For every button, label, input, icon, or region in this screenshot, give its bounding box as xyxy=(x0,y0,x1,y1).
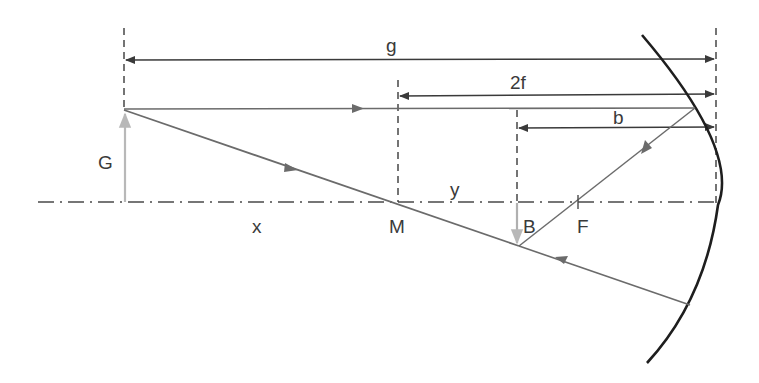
label-b: b xyxy=(613,107,624,128)
label-G: G xyxy=(98,152,113,173)
center-ray xyxy=(124,110,519,246)
label-M: M xyxy=(389,216,405,237)
label-F: F xyxy=(577,216,589,237)
reflected-center-ray xyxy=(519,246,690,305)
concave-mirror xyxy=(642,35,722,363)
label-2f: 2f xyxy=(510,72,527,93)
label-B: B xyxy=(523,216,536,237)
label-g: g xyxy=(386,35,397,56)
parallel-ray-direction-icon xyxy=(352,104,364,113)
optics-diagram: g 2f b G y x M B F xyxy=(0,0,759,383)
dimension-2f-arrow xyxy=(400,94,714,96)
parallel-ray xyxy=(124,108,695,109)
center-ray-direction-icon xyxy=(284,163,298,172)
dimension-g-arrow xyxy=(126,59,714,60)
label-x: x xyxy=(252,216,262,237)
label-y: y xyxy=(450,179,460,200)
focal-reflected-ray xyxy=(519,108,695,246)
